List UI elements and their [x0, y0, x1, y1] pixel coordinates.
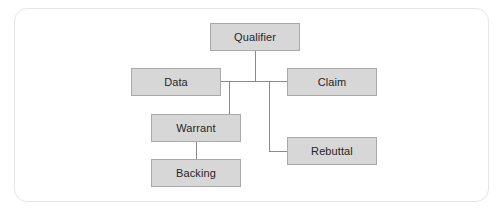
backing-connector	[196, 141, 197, 159]
qualifier-connector	[255, 50, 256, 81]
node-rebuttal: Rebuttal	[287, 137, 377, 165]
node-qualifier-label: Qualifier	[234, 31, 276, 43]
data-claim-connector	[220, 81, 287, 82]
rebuttal-connector-vertical	[269, 81, 270, 151]
node-claim-label: Claim	[318, 76, 347, 88]
node-warrant: Warrant	[151, 114, 241, 142]
rebuttal-connector-horizontal	[269, 151, 287, 152]
node-backing-label: Backing	[176, 167, 216, 179]
node-claim: Claim	[287, 68, 377, 96]
node-qualifier: Qualifier	[210, 23, 300, 51]
warrant-connector	[229, 81, 230, 114]
node-backing: Backing	[151, 159, 241, 187]
node-warrant-label: Warrant	[176, 122, 215, 134]
node-data: Data	[131, 68, 221, 96]
node-rebuttal-label: Rebuttal	[311, 145, 353, 157]
node-data-label: Data	[164, 76, 188, 88]
